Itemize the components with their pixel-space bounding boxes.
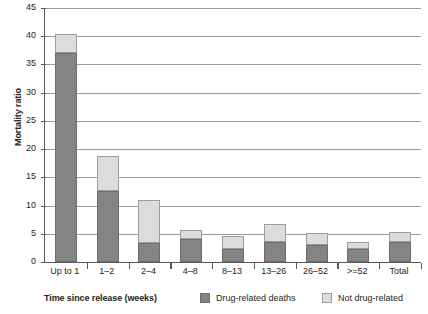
bar-segment-not-drug-related bbox=[222, 236, 244, 249]
y-axis-tick-mark bbox=[41, 36, 46, 37]
gridline bbox=[45, 121, 421, 122]
legend-swatch-drug-related-deaths bbox=[200, 293, 210, 303]
bar-segment-drug-related-deaths bbox=[180, 239, 202, 262]
y-axis-tick-label: 20 bbox=[10, 144, 36, 153]
bar-segment-drug-related-deaths bbox=[306, 245, 328, 262]
gridline bbox=[45, 64, 421, 65]
plot-area bbox=[44, 8, 421, 263]
y-axis-tick-mark bbox=[41, 121, 46, 122]
bar-up-to-1 bbox=[55, 34, 77, 262]
bar-segment-not-drug-related bbox=[389, 232, 411, 242]
bar-segment-drug-related-deaths bbox=[222, 249, 244, 262]
y-axis-tick-mark bbox=[41, 177, 46, 178]
legend-item-not-drug-related: Not drug-related bbox=[322, 292, 403, 304]
legend-item-drug-related-deaths: Drug-related deaths bbox=[200, 292, 296, 304]
bar-segment-drug-related-deaths bbox=[347, 249, 369, 262]
x-axis-tick-label: 8–13 bbox=[211, 266, 253, 276]
gridline bbox=[45, 149, 421, 150]
gridline bbox=[45, 36, 421, 37]
y-axis-tick-label: 30 bbox=[10, 88, 36, 97]
bar-segment-drug-related-deaths bbox=[97, 191, 119, 262]
bar-2-4 bbox=[138, 200, 160, 262]
x-axis-tick-label: 2–4 bbox=[128, 266, 170, 276]
gridline bbox=[45, 93, 421, 94]
bar-segment-not-drug-related bbox=[347, 242, 369, 249]
y-axis-tick-mark bbox=[41, 149, 46, 150]
y-axis-tick-label: 0 bbox=[10, 257, 36, 266]
bar-total bbox=[389, 232, 411, 262]
bar-segment-drug-related-deaths bbox=[264, 242, 286, 262]
y-axis-tick-mark bbox=[41, 206, 46, 207]
y-axis-tick-label: 45 bbox=[10, 3, 36, 12]
x-axis-tick-label: 1–2 bbox=[86, 266, 128, 276]
bar-segment-not-drug-related bbox=[55, 34, 77, 53]
bar-chart-figure: Mortality ratio Time since release (week… bbox=[0, 0, 428, 314]
bar-1-2 bbox=[97, 156, 119, 262]
y-axis-tick-label: 40 bbox=[10, 31, 36, 40]
bar--52 bbox=[347, 242, 369, 262]
bar-8-13 bbox=[222, 236, 244, 262]
y-axis-tick-label: 15 bbox=[10, 172, 36, 181]
y-axis-tick-mark bbox=[41, 262, 46, 263]
legend-row: Time since release (weeks) Drug-related … bbox=[0, 289, 428, 311]
y-axis-tick-mark bbox=[41, 234, 46, 235]
bar-26-52 bbox=[306, 233, 328, 262]
y-axis-tick-label: 10 bbox=[10, 201, 36, 210]
x-axis-title: Time since release (weeks) bbox=[44, 293, 157, 303]
bar-segment-not-drug-related bbox=[97, 156, 119, 191]
y-axis-tick-mark bbox=[41, 8, 46, 9]
bar-segment-not-drug-related bbox=[264, 224, 286, 242]
legend-swatch-not-drug-related bbox=[322, 293, 332, 303]
y-axis-tick-mark bbox=[41, 93, 46, 94]
x-axis-tick-label: 26–52 bbox=[295, 266, 337, 276]
legend-label-not-drug-related: Not drug-related bbox=[338, 293, 403, 303]
x-axis-tick-label: 4–8 bbox=[169, 266, 211, 276]
bar-13-26 bbox=[264, 224, 286, 262]
legend-label-drug-related-deaths: Drug-related deaths bbox=[216, 293, 296, 303]
y-axis-tick-label: 5 bbox=[10, 229, 36, 238]
gridline bbox=[45, 8, 421, 9]
bar-segment-drug-related-deaths bbox=[138, 243, 160, 262]
y-axis-tick-mark bbox=[41, 64, 46, 65]
bar-segment-drug-related-deaths bbox=[389, 242, 411, 262]
bar-4-8 bbox=[180, 230, 202, 262]
bar-segment-not-drug-related bbox=[306, 233, 328, 245]
bar-segment-not-drug-related bbox=[180, 230, 202, 239]
y-axis-tick-label: 25 bbox=[10, 116, 36, 125]
x-axis-tick-label: Total bbox=[378, 266, 420, 276]
bar-segment-not-drug-related bbox=[138, 200, 160, 243]
x-axis-tick-label: Up to 1 bbox=[44, 266, 86, 276]
y-axis-tick-label: 35 bbox=[10, 59, 36, 68]
x-axis-tick-label: 13–26 bbox=[253, 266, 295, 276]
bar-segment-drug-related-deaths bbox=[55, 53, 77, 262]
x-axis-tick-label: >=52 bbox=[336, 266, 378, 276]
x-axis-tick-mark bbox=[421, 263, 422, 269]
